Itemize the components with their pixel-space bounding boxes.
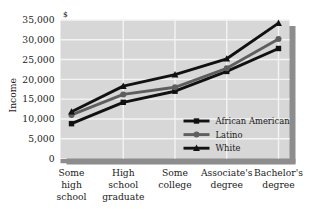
x-axis-category-label-line: High [112,167,135,178]
x-axis-category-label-line: high [61,179,82,190]
series-marker [224,65,230,71]
x-axis-category-labels: SomehighschoolHighschoolgraduateSomecoll… [57,167,304,203]
x-axis-category-label-line: college [158,179,191,190]
income-by-education-line-chart: 05,00010,00015,00020,00025,00030,00035,0… [0,0,313,209]
y-axis-tick-label: 10,000 [22,113,54,124]
x-axis-category-label-line: Some [59,167,85,178]
y-axis-tick-labels: 05,00010,00015,00020,00025,00030,00035,0… [22,14,54,164]
series-marker [276,36,282,42]
y-axis-tick-label: 20,000 [22,74,54,85]
x-axis-category-label-line: degree [262,179,294,190]
x-axis-category-label-line: Associate's [200,167,253,178]
legend-label: Latino [216,130,243,140]
series-marker [121,100,126,105]
legend-marker [194,132,200,138]
x-axis-category-label-line: Some [162,167,188,178]
y-axis-title: Income [7,78,18,112]
x-axis-category-label-line: school [57,191,87,202]
series-marker [69,121,74,126]
x-axis-category-label-line: Bachelor's [254,167,303,178]
legend-label: African American [215,116,291,126]
x-axis-category-label-line: graduate [102,191,144,202]
legend-marker [194,118,199,123]
y-axis-tick-label: 35,000 [22,14,54,25]
y-axis-tick-label: 25,000 [22,54,54,65]
legend-label: White [216,143,241,153]
x-axis-category-label-line: school [108,179,138,190]
chart-canvas: 05,00010,00015,00020,00025,00030,00035,0… [0,0,313,209]
series-marker [120,91,126,97]
y-axis-tick-label: 15,000 [22,93,54,104]
x-axis-category-label-line: degree [211,179,243,190]
series-marker [276,46,281,51]
y-axis-tick-label: 0 [49,153,55,164]
y-axis-unit-label: $ [63,10,68,19]
y-axis-tick-label: 30,000 [22,34,54,45]
y-axis-tick-label: 5,000 [28,133,54,144]
series-marker [172,84,178,90]
